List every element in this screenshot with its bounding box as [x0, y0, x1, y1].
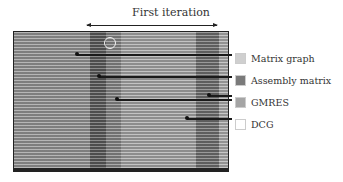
- legend: Matrix graph Assembly matrix GMRES DCG: [235, 47, 331, 135]
- legend-item-assembly-matrix: Assembly matrix: [235, 69, 331, 91]
- legend-item-matrix-graph: Matrix graph: [235, 47, 331, 69]
- first-iteration-span-arrow: [87, 25, 217, 26]
- arrow-gmres-2: [209, 95, 232, 97]
- swatch-gmres-icon: [235, 97, 246, 108]
- arrowhead-gmres-1: [115, 97, 119, 101]
- swatch-assembly-matrix-icon: [235, 75, 246, 86]
- band-assembly-matrix: [90, 32, 106, 168]
- legend-item-dcg: DCG: [235, 113, 331, 135]
- legend-label: Matrix graph: [251, 53, 315, 64]
- arrow-assembly-matrix: [99, 76, 232, 78]
- trace-timeline-frame: [13, 31, 229, 172]
- arrow-matrix-graph: [77, 54, 232, 56]
- arrowhead-gmres-2: [207, 93, 211, 97]
- arrowhead-dcg: [185, 116, 189, 120]
- legend-label: DCG: [251, 119, 273, 130]
- legend-item-gmres: GMRES: [235, 91, 331, 113]
- arrowhead-matrix-graph: [75, 52, 79, 56]
- legend-label: Assembly matrix: [251, 75, 331, 86]
- swatch-matrix-graph-icon: [235, 53, 246, 64]
- legend-label: GMRES: [251, 97, 289, 108]
- trace-status-bar: [14, 168, 228, 171]
- arrowhead-assembly-matrix: [97, 74, 101, 78]
- highlight-circle-icon: [104, 37, 116, 49]
- swatch-dcg-icon: [235, 119, 246, 130]
- arrow-dcg: [187, 118, 232, 120]
- arrow-gmres-1: [117, 99, 232, 101]
- first-iteration-label: First iteration: [121, 6, 221, 19]
